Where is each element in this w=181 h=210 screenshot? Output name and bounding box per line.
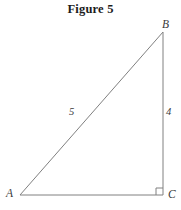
side-length-label-bc: 4 bbox=[166, 107, 171, 118]
vertex-label-c: C bbox=[168, 189, 176, 201]
right-triangle-diagram bbox=[0, 0, 181, 210]
figure-container: Figure 5 B A C 5 4 bbox=[0, 0, 181, 210]
vertex-label-a: A bbox=[6, 188, 13, 200]
side-length-label-ab: 5 bbox=[69, 107, 74, 118]
right-angle-marker-icon bbox=[156, 188, 163, 195]
side-ab-hypotenuse-line bbox=[20, 32, 163, 195]
vertex-label-b: B bbox=[162, 19, 169, 31]
